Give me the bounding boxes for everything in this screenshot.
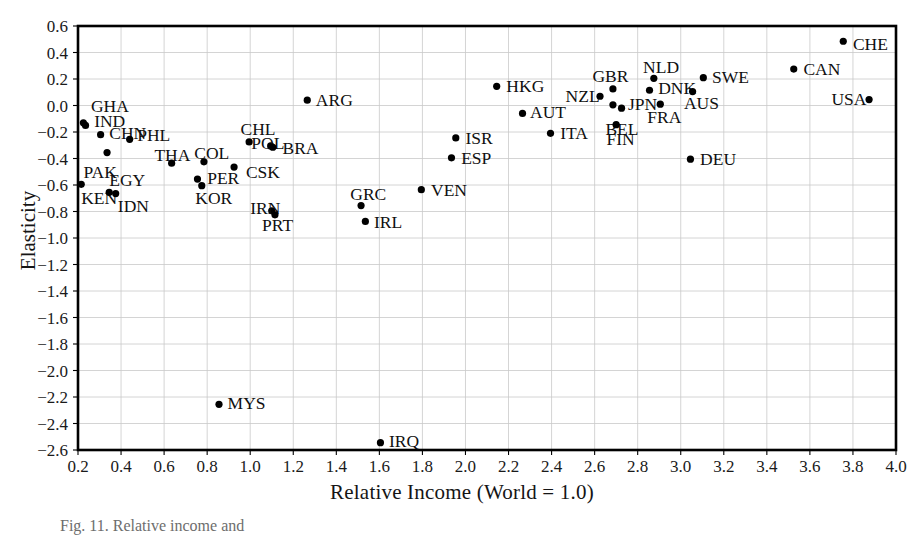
data-point-per — [194, 175, 201, 182]
data-point-arg — [304, 97, 311, 104]
x-axis-title: Relative Income (World = 1.0) — [0, 480, 924, 505]
x-tick-label: 1.8 — [412, 457, 433, 476]
y-axis-title: Elasticity — [16, 121, 41, 341]
data-point-irq — [377, 439, 384, 446]
y-tick-label: −1.2 — [37, 256, 68, 275]
x-axis: 0.20.40.60.81.01.21.41.61.82.02.22.42.62… — [67, 450, 906, 476]
data-point-can — [790, 65, 797, 72]
data-point-aut — [519, 110, 526, 117]
y-tick-label: −0.6 — [37, 176, 68, 195]
point-label-usa: USA — [831, 89, 866, 109]
data-point-ind — [82, 122, 89, 129]
point-label-mys: MYS — [228, 393, 266, 413]
y-axis: 0.60.40.20.0−0.2−0.4−0.6−0.8−1.0−1.2−1.4… — [37, 17, 78, 460]
data-point-esp — [448, 154, 455, 161]
data-point-che — [840, 38, 847, 45]
figure-caption: Fig. 11. Relative income and — [60, 517, 244, 535]
point-label-can: CAN — [803, 59, 840, 79]
point-label-phl: PHL — [137, 125, 170, 145]
point-label-aus: AUS — [684, 93, 719, 113]
x-tick-label: 0.6 — [153, 457, 174, 476]
point-label-egy: EGY — [109, 170, 145, 190]
x-tick-label: 0.4 — [110, 457, 132, 476]
y-tick-label: 0.2 — [47, 70, 68, 89]
point-label-ita: ITA — [560, 123, 588, 143]
point-label-esp: ESP — [461, 148, 491, 168]
data-point-bra — [269, 144, 276, 151]
y-tick-label: −1.8 — [37, 335, 68, 354]
data-point-pak — [103, 149, 110, 156]
point-label-ven: VEN — [431, 180, 467, 200]
point-label-fin: FIN — [606, 129, 635, 149]
point-label-per: PER — [207, 168, 239, 188]
x-tick-label: 0.2 — [67, 457, 88, 476]
point-label-isr: ISR — [465, 128, 493, 148]
point-label-nzl: NZL — [566, 86, 600, 106]
data-point-jpn — [618, 105, 625, 112]
x-tick-label: 2.4 — [541, 457, 563, 476]
point-label-gbr: GBR — [592, 66, 628, 86]
point-label-irl: IRL — [374, 212, 402, 232]
x-tick-label: 1.6 — [369, 457, 390, 476]
point-label-prt: PRT — [262, 215, 293, 235]
data-point-fin — [613, 121, 620, 128]
y-tick-label: −0.2 — [37, 123, 68, 142]
point-label-fra: FRA — [647, 107, 681, 127]
x-tick-label: 2.6 — [584, 457, 605, 476]
x-tick-label: 3.0 — [670, 457, 691, 476]
y-tick-label: −0.4 — [37, 150, 68, 169]
y-tick-label: −1.4 — [37, 282, 68, 301]
x-tick-label: 1.0 — [240, 457, 261, 476]
data-point-gbr — [609, 85, 616, 92]
point-label-aut: AUT — [530, 102, 566, 122]
x-tick-label: 3.2 — [713, 457, 734, 476]
y-tick-label: −0.8 — [37, 203, 68, 222]
point-label-idn: IDN — [118, 196, 149, 216]
point-label-nld: NLD — [643, 57, 679, 77]
x-tick-label: 3.8 — [842, 457, 863, 476]
point-label-che: CHE — [853, 34, 888, 54]
y-tick-label: −1.6 — [37, 309, 68, 328]
point-label-hkg: HKG — [506, 76, 544, 96]
point-label-irq: IRQ — [389, 431, 420, 451]
y-tick-label: 0.6 — [47, 17, 68, 36]
point-label-bra: BRA — [283, 138, 319, 158]
x-tick-label: 2.8 — [627, 457, 648, 476]
data-point-mys — [215, 401, 222, 408]
y-tick-label: 0.0 — [47, 97, 68, 116]
y-tick-label: −2.2 — [37, 388, 68, 407]
point-label-arg: ARG — [316, 90, 353, 110]
data-point-hkg — [493, 83, 500, 90]
point-label-csk: CSK — [246, 162, 280, 182]
data-point-phl — [126, 136, 133, 143]
point-label-grc: GRC — [350, 184, 386, 204]
y-tick-label: 0.4 — [47, 44, 69, 63]
data-point-isr — [452, 134, 459, 141]
data-point-ita — [547, 130, 554, 137]
data-point-bel — [609, 101, 616, 108]
data-points: GHAINDCHNPAKKENEGYIDNPHLTHACOLCHLCSKPERK… — [78, 34, 888, 452]
data-point-ven — [418, 186, 425, 193]
data-point-deu — [687, 156, 694, 163]
point-label-tha: THA — [154, 145, 190, 165]
x-tick-label: 3.6 — [799, 457, 820, 476]
data-point-dnk — [646, 87, 653, 94]
data-point-swe — [700, 74, 707, 81]
x-tick-label: 1.2 — [283, 457, 304, 476]
point-label-deu: DEU — [700, 149, 736, 169]
point-label-pol: POL — [251, 133, 284, 153]
data-point-usa — [865, 96, 872, 103]
x-tick-label: 0.8 — [197, 457, 218, 476]
x-tick-label: 1.4 — [326, 457, 348, 476]
point-label-col: COL — [194, 143, 229, 163]
point-label-kor: KOR — [195, 188, 232, 208]
y-tick-label: −2.6 — [37, 441, 68, 460]
x-tick-label: 3.4 — [756, 457, 778, 476]
data-point-irl — [362, 218, 369, 225]
data-point-chn — [97, 131, 104, 138]
x-tick-label: 2.0 — [455, 457, 476, 476]
y-tick-label: −2.4 — [37, 415, 68, 434]
x-tick-label: 4.0 — [885, 457, 906, 476]
